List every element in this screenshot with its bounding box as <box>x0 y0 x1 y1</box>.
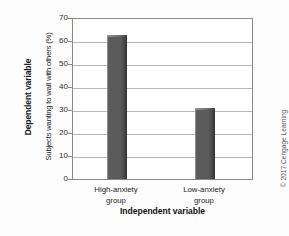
gridline-10 <box>73 157 252 158</box>
bar-top-cap <box>107 35 127 37</box>
y-tick-label: 30 <box>46 106 68 114</box>
y-tick-label: 20 <box>46 129 68 137</box>
y-axis-outer-title: Dependent variable <box>23 17 33 177</box>
y-tick-label: 40 <box>46 83 68 91</box>
bar-top-cap <box>195 108 215 110</box>
gridline-40 <box>73 88 252 89</box>
x-axis-title: Independent variable <box>72 206 253 216</box>
x-tick-label-low-anxiety: Low-anxiety group <box>160 185 248 206</box>
x-tick-label-high-anxiety: High-anxiety group <box>72 185 160 206</box>
gridline-30 <box>73 111 252 112</box>
y-tick-label: 60 <box>46 37 68 45</box>
gridline-20 <box>73 134 252 135</box>
y-tick-label: 0 <box>46 175 68 183</box>
gridline-50 <box>73 65 252 66</box>
bar-face <box>107 35 127 179</box>
copyright-notice: © 2017 Cengage Learning <box>280 94 287 204</box>
y-axis-tick-labels: 70 60 50 40 30 20 10 0 <box>46 18 68 180</box>
y-tick-label: 70 <box>46 14 68 22</box>
bar-low-anxiety-group <box>195 108 215 179</box>
y-tick-label: 10 <box>46 152 68 160</box>
gridline-60 <box>73 42 252 43</box>
plot-area <box>72 18 253 180</box>
bar-chart-figure: Dependent variable Subjects wanting to w… <box>0 0 289 236</box>
y-tick-label: 50 <box>46 60 68 68</box>
bar-high-anxiety-group <box>107 35 127 179</box>
bar-face <box>195 108 215 179</box>
